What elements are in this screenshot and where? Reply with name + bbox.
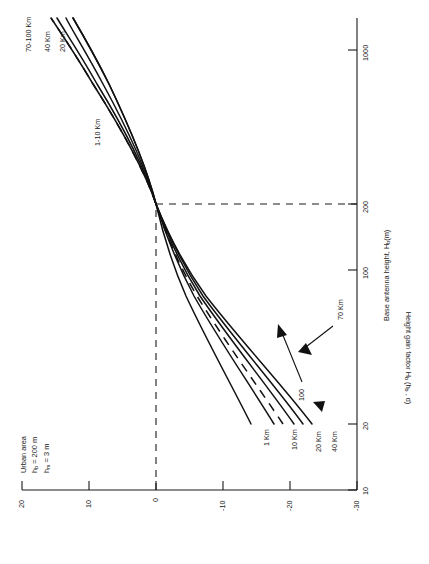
curve-label-10-km: 10 Km bbox=[290, 429, 299, 450]
curve-label-70-km: 70 Km bbox=[336, 299, 345, 320]
callout-arrow-100 bbox=[277, 324, 302, 382]
chart-page: 10 20 100 200 1000 Base antenna height, … bbox=[0, 0, 429, 564]
curve-label-1-10-km: 1-10 Km bbox=[93, 119, 102, 146]
annotation-line-2: hb = 200 m bbox=[29, 436, 41, 473]
curve-20-km bbox=[66, 18, 294, 424]
y-axis-title-mid: (h bbox=[404, 380, 413, 389]
x-tick-label-1000: 1000 bbox=[361, 45, 370, 61]
x-axis-title-unit: (m) bbox=[382, 230, 391, 241]
annotation-line-3-sub: m bbox=[45, 464, 51, 468]
y-tick-label-10: 10 bbox=[84, 500, 93, 508]
x-tick-label-100: 100 bbox=[361, 267, 370, 279]
x-tick-label-20: 20 bbox=[361, 422, 370, 430]
annotation-line-3-prefix: h bbox=[42, 469, 51, 473]
curve-label-40-km-bottom: 40 Km bbox=[330, 431, 339, 452]
curve-group bbox=[51, 18, 312, 424]
x-axis-title-sub: b bbox=[385, 241, 391, 244]
curve-label-1-km: 1 Km bbox=[262, 429, 271, 446]
chart-figure: 10 20 100 200 1000 Base antenna height, … bbox=[0, 0, 429, 564]
annotation-line-3-suffix: = 3 m bbox=[42, 444, 51, 465]
y-axis-title-end: , d) bbox=[404, 392, 413, 405]
annotation-line-2-prefix: h bbox=[30, 469, 39, 473]
curve-10-km bbox=[73, 18, 274, 424]
y-axis-title-main: Height gain factor H bbox=[404, 312, 413, 377]
y-tick-label--20: -20 bbox=[285, 500, 294, 511]
y-tick-label-0: 0 bbox=[151, 498, 160, 502]
x-axis-title: Base antenna height, Hb(m) bbox=[382, 230, 391, 321]
y-tick-label--30: -30 bbox=[352, 500, 361, 511]
reference-lines bbox=[156, 204, 357, 490]
x-tick-label-10: 10 bbox=[361, 487, 370, 495]
callout-label-100: 100 bbox=[297, 389, 306, 401]
curve-label-20-km-bottom: 20 Km bbox=[314, 431, 323, 452]
y-tick-marks bbox=[22, 481, 357, 490]
annotation-line-1: Urban area bbox=[18, 436, 29, 473]
annotation-line-3: hm = 3 m bbox=[41, 436, 53, 473]
curve-70-km bbox=[51, 18, 303, 424]
x-tick-label-200: 200 bbox=[361, 201, 370, 213]
y-tick-label-20: 20 bbox=[17, 500, 26, 508]
x-axis-title-main: Base antenna height, H bbox=[382, 244, 391, 321]
y-axis-title: Height gain factor Hb (hb , d) bbox=[404, 248, 413, 468]
curve-label-40-km-top: 40 Km bbox=[43, 31, 52, 52]
annotation-note-block: Urban area hb = 200 m hm = 3 m bbox=[18, 436, 53, 473]
y-tick-label--10: -10 bbox=[218, 500, 227, 511]
plot-svg bbox=[0, 0, 429, 564]
x-tick-marks bbox=[348, 50, 357, 490]
callout-arrow-70km bbox=[298, 326, 333, 355]
annotation-line-2-suffix: = 200 m bbox=[30, 437, 39, 466]
curve-label-70-100-km: 70-100 Km bbox=[24, 17, 33, 52]
curve-40-km bbox=[57, 18, 312, 424]
curve-label-20-km-top: 20 Km bbox=[58, 31, 67, 52]
annotation-line-2-sub: b bbox=[34, 466, 40, 469]
callout-arrow-10km bbox=[313, 401, 325, 412]
